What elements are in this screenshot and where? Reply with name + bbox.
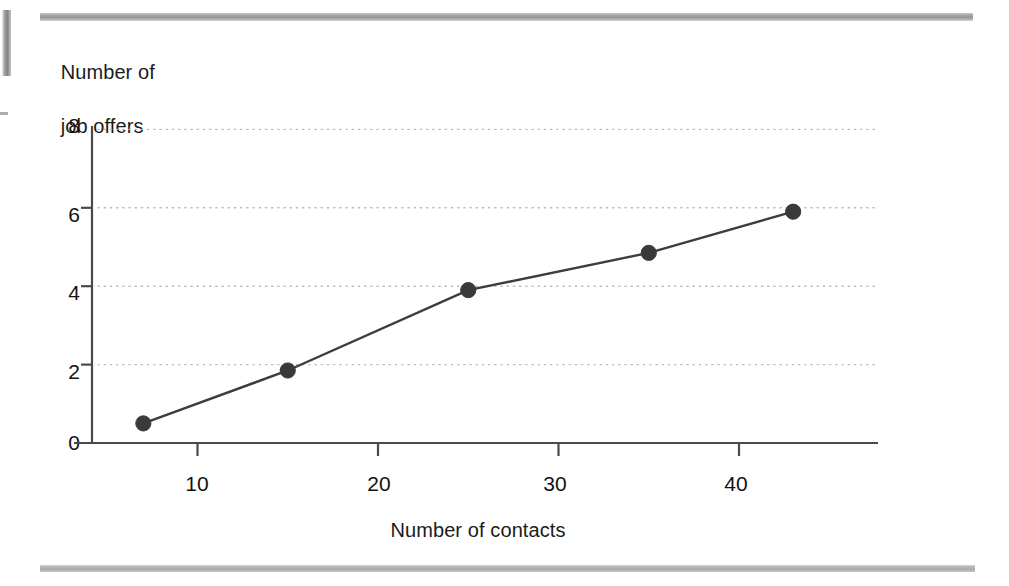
data-series-layer: [136, 204, 801, 431]
line-chart-figure: Number of job offers 8 6 4 2 0 10 20 30 …: [0, 0, 1009, 586]
data-line-job-offers: [143, 212, 793, 424]
chart-canvas: [0, 0, 1009, 586]
data-point-0: [136, 416, 151, 431]
gridline-layer: [98, 129, 878, 364]
x-axis-title: Number of contacts: [0, 519, 956, 542]
data-point-2: [461, 283, 476, 298]
data-point-1: [280, 363, 295, 378]
plot-area: 8 6 4 2 0 10 20 30 40: [0, 0, 1009, 586]
data-point-4: [786, 204, 801, 219]
data-point-3: [641, 245, 656, 260]
